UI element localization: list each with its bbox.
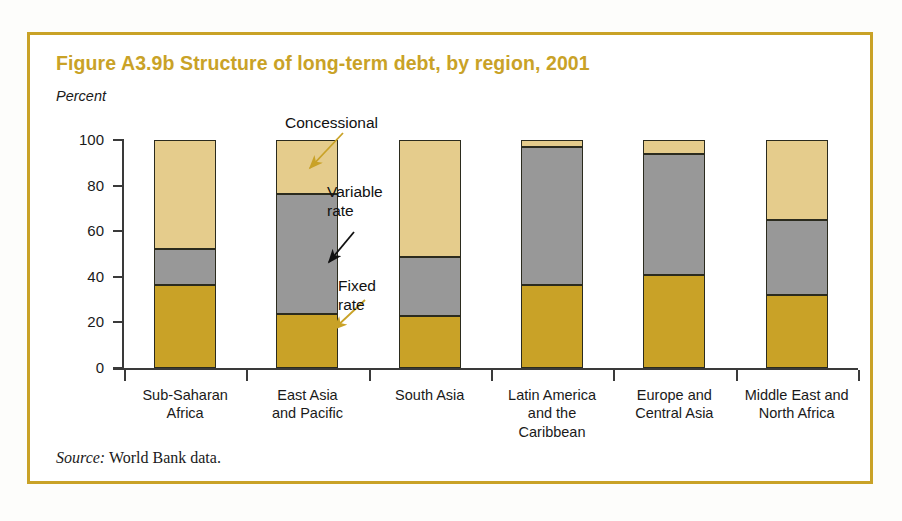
y-axis-line <box>122 139 124 370</box>
y-tick-label: 80 <box>58 178 104 193</box>
x-axis-line <box>113 368 858 370</box>
bar-segment-variable[interactable] <box>521 147 583 285</box>
annotation-variable-rate: Variable rate <box>327 183 383 220</box>
x-tick-mark <box>613 370 615 381</box>
stacked-bar[interactable] <box>766 140 828 368</box>
y-tick-mark <box>113 321 124 323</box>
y-tick-mark <box>113 139 124 141</box>
bar-segment-variable[interactable] <box>766 220 828 295</box>
bar-segment-concessional[interactable] <box>399 140 461 257</box>
bar-segment-fixed[interactable] <box>766 295 828 368</box>
x-tick-mark <box>736 370 738 381</box>
stacked-bar[interactable] <box>521 140 583 368</box>
x-axis-category-label: Middle East andNorth Africa <box>726 386 868 423</box>
bar-segment-variable[interactable] <box>154 249 216 284</box>
figure-root: Figure A3.9b Structure of long-term debt… <box>0 0 902 521</box>
x-axis-category-label: Latin Americaand theCaribbean <box>481 386 623 441</box>
x-axis-category-label: Sub-SaharanAfrica <box>114 386 256 423</box>
x-tick-mark <box>491 370 493 381</box>
chart-plot-area: 020406080100 Sub-SaharanAfricaEast Asiaa… <box>0 0 902 521</box>
annotation-concessional: Concessional <box>285 114 378 133</box>
x-tick-mark <box>246 370 248 381</box>
y-tick-label: 20 <box>58 314 104 329</box>
bar-segment-fixed[interactable] <box>521 285 583 368</box>
bar-segment-concessional[interactable] <box>643 140 705 154</box>
bar-segment-concessional[interactable] <box>154 140 216 249</box>
bar-segment-fixed[interactable] <box>399 316 461 368</box>
bar-segment-concessional[interactable] <box>766 140 828 220</box>
stacked-bar[interactable] <box>154 140 216 368</box>
bar-segment-fixed[interactable] <box>276 314 338 368</box>
source-label: Source: <box>56 449 105 466</box>
bar-segment-variable[interactable] <box>399 257 461 315</box>
y-tick-mark <box>113 230 124 232</box>
bar-segment-variable[interactable] <box>643 154 705 275</box>
x-axis-category-label: East Asiaand Pacific <box>236 386 378 423</box>
y-tick-mark <box>113 185 124 187</box>
annotation-fixed-rate: Fixed rate <box>338 277 376 314</box>
x-axis-category-label: South Asia <box>359 386 501 404</box>
x-tick-mark <box>124 370 126 381</box>
y-tick-mark <box>113 367 124 369</box>
x-tick-mark <box>858 370 860 381</box>
y-tick-label: 40 <box>58 269 104 284</box>
source-value: World Bank data. <box>105 449 221 466</box>
bar-segment-concessional[interactable] <box>521 140 583 147</box>
stacked-bar[interactable] <box>643 140 705 368</box>
y-tick-label: 60 <box>58 223 104 238</box>
x-tick-mark <box>369 370 371 381</box>
y-tick-mark <box>113 276 124 278</box>
x-axis-category-label: Europe andCentral Asia <box>603 386 745 423</box>
stacked-bar[interactable] <box>276 140 338 368</box>
stacked-bar[interactable] <box>399 140 461 368</box>
bar-segment-fixed[interactable] <box>643 275 705 368</box>
y-tick-label: 100 <box>58 132 104 147</box>
source-note: Source: World Bank data. <box>56 449 221 467</box>
bar-segment-fixed[interactable] <box>154 285 216 368</box>
y-tick-label: 0 <box>58 360 104 375</box>
